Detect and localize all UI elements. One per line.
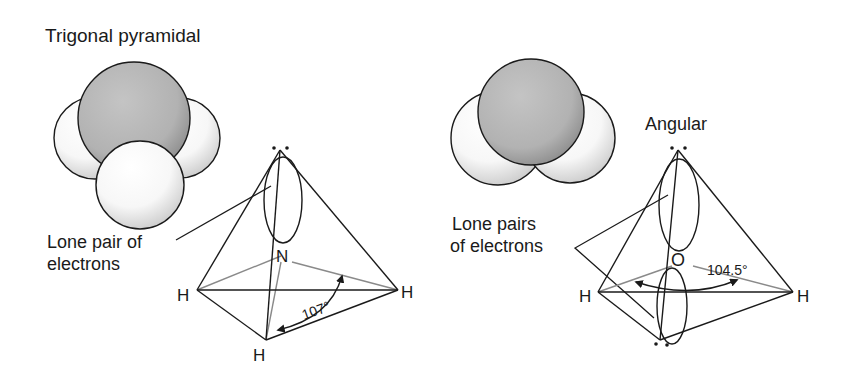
oxygen-atom-label: O [671,250,685,270]
lone-pair-label-line2: electrons [47,254,120,274]
lone-pairs-label-line2: of electrons [450,236,543,256]
title-trigonal-pyramidal: Trigonal pyramidal [45,25,201,46]
molecular-geometry-diagram: Trigonal pyramidal Lone pair of electron… [0,0,856,380]
water-tetrahedron [598,150,793,344]
ammonia-space-filling-model [54,62,220,229]
right-panel-water: Angular Lone pairs of electrons O H H [450,59,809,347]
oxygen-sphere [478,59,584,165]
lone-pair-orbital-upper [659,159,699,251]
hydrogen-label-right: H [401,283,413,302]
lone-pair-orbital-lower [657,268,687,344]
bond-angle-arc [636,280,737,291]
lone-pair-dot [683,146,687,150]
hydrogen-label-right: H [797,287,809,306]
hydrogen-label-left: H [177,286,189,305]
bond-angle-label: 104.5° [707,262,748,278]
lone-pair-dot [285,146,289,150]
lone-pair-dot [272,146,276,150]
nitrogen-atom-label: N [276,247,288,266]
left-panel-ammonia: Trigonal pyramidal Lone pair of electron… [45,25,413,365]
lone-pair-pointer-line [176,186,271,240]
ammonia-tetrahedron [197,150,398,340]
hydrogen-sphere-front [96,141,184,229]
lone-pair-dot [665,343,669,347]
lone-pair-label-line1: Lone pair of [47,232,143,252]
title-angular: Angular [645,114,707,134]
hydrogen-label-bottom: H [253,346,265,365]
bond-angle-label: 107° [300,298,333,323]
lone-pair-orbital [264,157,302,243]
lone-pairs-label-line1: Lone pairs [452,214,536,234]
hydrogen-label-left: H [579,287,591,306]
lone-pair-dot [654,342,658,346]
water-space-filling-model [451,59,615,185]
lone-pair-dot [670,146,674,150]
